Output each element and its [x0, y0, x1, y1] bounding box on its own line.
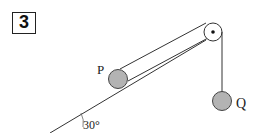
incline-rail-lower — [128, 38, 208, 81]
pulley-axle — [211, 30, 215, 34]
incline-surface — [50, 40, 206, 133]
label-p: P — [97, 63, 104, 76]
ball-q — [213, 92, 232, 111]
label-q: Q — [236, 97, 246, 110]
ball-p — [109, 70, 128, 89]
label-angle: 30° — [83, 119, 100, 132]
physics-diagram — [0, 0, 256, 133]
